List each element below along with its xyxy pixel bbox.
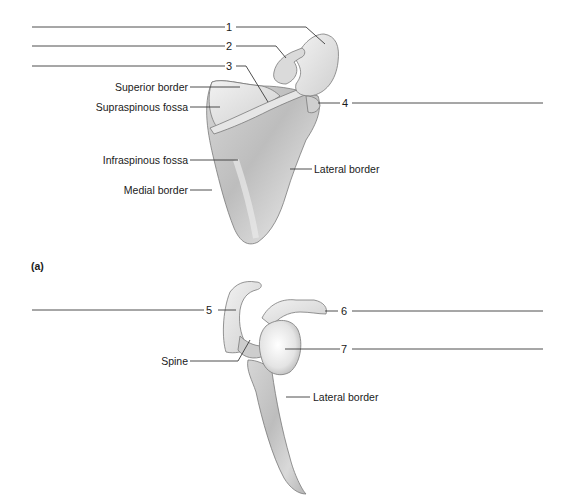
label-number-7: 7 — [341, 343, 347, 355]
label-lateral-border-lower: Lateral border — [313, 391, 378, 403]
label-lateral-border-upper: Lateral border — [314, 163, 379, 175]
label-number-1: 1 — [226, 21, 232, 33]
scapula-illustration — [0, 0, 565, 502]
label-medial-border: Medial border — [124, 184, 188, 196]
label-number-5: 5 — [206, 304, 212, 316]
panel-label-a: (a) — [31, 260, 44, 272]
label-infraspinous-fossa: Infraspinous fossa — [103, 154, 188, 166]
label-number-4: 4 — [342, 97, 348, 109]
label-number-3: 3 — [226, 60, 232, 72]
lateral-view — [223, 281, 326, 494]
label-spine: Spine — [161, 355, 188, 367]
label-supraspinous-fossa: Supraspinous fossa — [96, 101, 188, 113]
label-number-2: 2 — [226, 40, 232, 52]
label-number-6: 6 — [341, 305, 347, 317]
label-superior-border: Superior border — [115, 81, 188, 93]
